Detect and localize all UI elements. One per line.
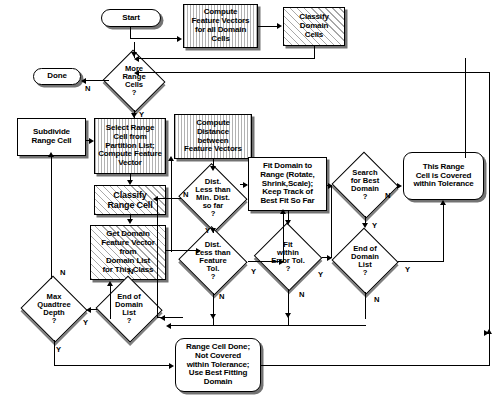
edge-bus-into-endlist1: [163, 317, 183, 318]
node-fit-within-error-tol-label: FitwithinError Tol.?: [271, 241, 305, 274]
edge-outer-right-top: [465, 72, 490, 73]
node-start-label: Start: [120, 14, 141, 23]
edge-outer-right-rail: [489, 72, 490, 333]
edge-label: Y: [205, 226, 210, 235]
arrowhead: [107, 281, 113, 286]
edge-computefv-to-classifydom: [258, 26, 277, 27]
arrowhead: [177, 36, 182, 42]
node-end-of-domain-list-left: End ofDomainList?: [96, 278, 162, 340]
edge-label: Y: [139, 110, 144, 119]
node-compute-distance: ComputeDistancebetweenFeature Vectors: [174, 114, 252, 159]
arrowhead: [243, 182, 248, 188]
flowchart-canvas: Start ComputeFeature Vectorsfor all Doma…: [0, 0, 497, 410]
arrowhead: [397, 183, 402, 189]
node-compute-distance-label: ComputeDistancebetweenFeature Vectors: [182, 119, 244, 155]
edge-label: N: [85, 84, 90, 93]
edge-distmin-no-down: [157, 198, 158, 318]
arrowhead: [134, 70, 139, 76]
edge-label: N: [60, 268, 65, 277]
node-classify-range-cell-label: ClassifyRange Cell: [105, 190, 154, 210]
edge-to-rangecelldone: [54, 365, 170, 366]
arrowhead: [168, 156, 174, 161]
arrowhead: [48, 152, 54, 157]
arrowhead: [86, 307, 91, 313]
edge-start-to-computefv: [130, 38, 177, 39]
node-fit-within-error-tol: FitwithinError Tol.?: [254, 225, 322, 289]
edge-up-to-computedistance: [171, 160, 172, 252]
edge-label: N: [128, 267, 133, 276]
arrowhead: [328, 183, 333, 189]
arrowhead: [440, 200, 446, 205]
edge-label: N: [374, 295, 379, 304]
node-subdivide-range-cell-label: SubdivideRange Cell: [30, 128, 74, 146]
edge-drop-fiterror: [288, 317, 289, 326]
node-range-cell-covered: This RangeCell is Coveredwithin Toleranc…: [403, 152, 484, 200]
edge-endlist1-no-up: [110, 285, 111, 319]
node-search-for-best-domain-label: Searchfor BestDomain?: [351, 169, 380, 202]
node-end-of-domain-list-right: End ofDomainList?: [332, 230, 398, 292]
node-end-of-domain-list-right-label: End ofDomainList?: [351, 245, 379, 278]
edge-distfeat-yes-right: [248, 261, 283, 262]
edge-morerange-no-to-done: [86, 80, 109, 81]
edge-label: Y: [372, 221, 377, 230]
node-classify-domain-cells: ClassifyDomainCells: [283, 7, 345, 46]
arrowhead: [81, 78, 86, 84]
edge-endlist1-yes-to-maxdepth: [91, 309, 97, 310]
node-max-quadtree-depth-label: MaxQuadtreeDepth?: [37, 293, 70, 326]
arrowhead: [285, 220, 291, 225]
node-done: Done: [33, 68, 81, 85]
node-end-of-domain-list-left-label: End ofDomainList?: [115, 293, 143, 326]
node-compute-feature-vectors-label: ComputeFeature Vectorsfor all DomainCell…: [190, 8, 252, 44]
edge-drop-distfeat: [213, 317, 214, 326]
arrowhead: [131, 52, 137, 57]
arrowhead: [127, 219, 133, 224]
arrowhead: [169, 363, 174, 369]
edge-fiterror-yes-up: [331, 185, 332, 258]
edge-label: N: [299, 290, 304, 299]
edge-label: N: [219, 292, 224, 301]
node-range-cell-done-label: Range Cell Done;Not Coveredwithin Tolera…: [184, 343, 252, 388]
edge-label: Y: [56, 345, 61, 354]
edge-lower-return-bus: [170, 325, 366, 326]
node-select-range-cell: Select RangeCell fromPartition List;Comp…: [94, 118, 166, 174]
arrowhead: [131, 113, 137, 118]
node-fit-domain-to-range-label: Fit Domain toRange (Rotate,Shrink,Scale)…: [258, 162, 316, 207]
edge-label: N: [183, 190, 188, 199]
arrowhead: [166, 323, 171, 329]
node-range-cell-done: Range Cell Done;Not Coveredwithin Tolera…: [175, 338, 261, 392]
arrowhead: [210, 166, 216, 171]
edge-classifydom-left: [138, 58, 315, 59]
edge-covered-rail-top: [138, 72, 466, 73]
arrowhead: [277, 23, 282, 29]
arrowhead: [89, 138, 94, 144]
node-search-for-best-domain: Searchfor BestDomain?: [332, 154, 398, 216]
node-done-label: Done: [45, 72, 68, 81]
edge-label: N: [385, 191, 390, 200]
arrowhead: [486, 329, 492, 334]
edge-label: Y: [405, 265, 410, 274]
node-dist-less-than-min-dist: Dist.Less thanMin. Dist.so far?: [178, 166, 248, 230]
edge-label: Y: [83, 318, 88, 327]
edge-endlist2-yes-right: [398, 261, 444, 262]
edge-bottom-bus: [261, 365, 490, 366]
edge-covered-up-stub: [465, 152, 466, 158]
arrowhead: [362, 223, 368, 228]
node-classify-domain-cells-label: ClassifyDomainCells: [297, 13, 330, 40]
node-fit-domain-to-range: Fit Domain toRange (Rotate,Shrink,Scale)…: [248, 157, 327, 211]
edge-endlist2-yes-up: [443, 205, 444, 262]
edge-label: Y: [318, 270, 323, 279]
edge-maxdepth-yes-down: [54, 340, 55, 365]
node-dist-less-than-feature-tol: Dist.Less thanFeatureTol.?: [178, 229, 248, 293]
arrowhead: [196, 248, 201, 254]
edge-maxdepth-no-up: [51, 156, 52, 279]
node-max-quadtree-depth: MaxQuadtreeDepth?: [21, 278, 87, 340]
arrowhead: [160, 315, 165, 321]
arrowhead: [210, 228, 216, 233]
edge-distmin-no-left: [157, 198, 181, 199]
node-dist-less-than-min-dist-label: Dist.Less thanMin. Dist.so far?: [195, 178, 230, 219]
edge-endlist2-no-down: [365, 292, 366, 319]
node-subdivide-range-cell: SubdivideRange Cell: [17, 118, 86, 156]
node-start: Start: [101, 9, 161, 27]
arrowhead: [127, 180, 133, 185]
edge-label: Y: [251, 267, 256, 276]
